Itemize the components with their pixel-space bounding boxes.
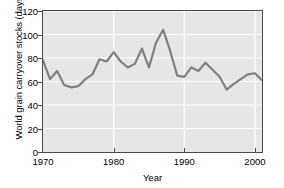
x-axis-tick-label: 1980 <box>94 156 134 167</box>
x-axis-tick-group: 1970198019902000 <box>42 153 263 173</box>
y-axis-tick-label: 100 <box>4 29 38 40</box>
chart-canvas <box>43 11 262 152</box>
x-axis-tick-mark <box>114 148 115 153</box>
y-axis-tick-label: 40 <box>4 100 38 111</box>
data-series-line <box>43 30 262 90</box>
chart-figure: World grain carryover stocks (days) 0204… <box>0 0 284 188</box>
x-axis-tick-label: 2000 <box>235 156 275 167</box>
plot-area <box>42 10 263 153</box>
x-axis-tick-mark <box>184 148 185 153</box>
x-axis-tick-label: 1970 <box>23 156 63 167</box>
y-axis-tick-label: 120 <box>4 6 38 17</box>
x-axis-tick-mark <box>255 148 256 153</box>
y-axis-tick-label: 60 <box>4 76 38 87</box>
y-axis-tick-label: 20 <box>4 123 38 134</box>
y-axis-tick-group: 020406080100120 <box>0 10 38 153</box>
x-axis-tick-label: 1990 <box>164 156 204 167</box>
x-axis-title: Year <box>42 172 263 183</box>
y-axis-tick-label: 80 <box>4 53 38 64</box>
